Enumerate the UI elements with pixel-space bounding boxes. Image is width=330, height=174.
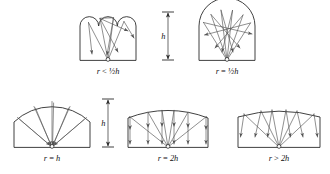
reflection-diagram: r < ½h h r = ½h [0, 0, 330, 174]
incident-rays [18, 102, 87, 148]
height-label-bottom: h [101, 119, 105, 128]
panel-r-eq-h: r = h [14, 102, 90, 164]
reflected-rays-parallel [130, 111, 206, 145]
incident-rays [89, 18, 125, 60]
panel-r-lt-half-h: r < ½h [80, 17, 136, 76]
caption-r-eq-half-h: r = ½h [216, 67, 239, 76]
mid-ray-arrowheads [128, 122, 208, 130]
height-dimension-bottom: h [101, 99, 114, 147]
source-point [166, 145, 170, 149]
source-point [225, 58, 229, 62]
caption-value: ½h [228, 67, 238, 76]
panel-r-eq-2h: r = 2h [128, 110, 208, 163]
figure-container: r < ½h h r = ½h [0, 0, 330, 174]
height-label-top: h [161, 32, 165, 41]
incident-rays [244, 110, 314, 147]
source-point [106, 58, 110, 62]
source-point [50, 145, 54, 149]
incident-rays [130, 110, 207, 147]
source-point [277, 145, 281, 149]
caption-r-lt-half-h: r < ½h [97, 67, 120, 76]
reflected-rays [204, 10, 253, 52]
panel-r-eq-half-h: r = ½h [199, 0, 255, 76]
caption-r-eq-h: r = h [44, 154, 60, 163]
height-dimension-top: h [161, 12, 174, 60]
incident-rays [204, 10, 251, 60]
caption-value: h [56, 154, 60, 163]
caption-value: ½h [109, 67, 119, 76]
room-outline-arc-gt2h [238, 111, 320, 147]
caption-value: 2h [170, 154, 178, 163]
panel-r-gt-2h: r > 2h [238, 110, 320, 163]
caption-value: 2h [281, 154, 289, 163]
caption-r-eq-2h: r = 2h [158, 154, 179, 163]
room-outline-arc-2h [128, 110, 208, 147]
caption-r-gt-2h: r > 2h [269, 154, 290, 163]
